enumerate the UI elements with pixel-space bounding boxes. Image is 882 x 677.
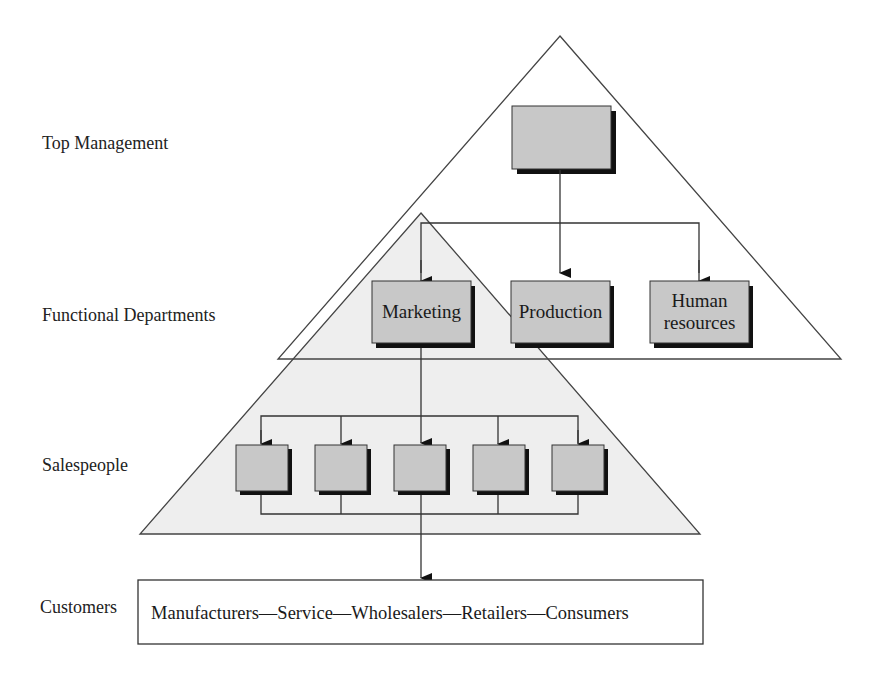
customers-types: Manufacturers—Service—Wholesalers—Retail… <box>151 603 629 624</box>
salesperson-box-4 <box>473 445 529 495</box>
salesperson-box-1 <box>236 445 292 495</box>
level-label-customers: Customers <box>40 597 117 618</box>
salesperson-box-3 <box>394 445 450 495</box>
department-label-production: Production <box>511 281 610 343</box>
top-management-box <box>512 106 616 174</box>
level-label-salespeople: Salespeople <box>42 455 128 476</box>
level-label-functional-departments: Functional Departments <box>42 305 215 326</box>
department-label-marketing: Marketing <box>372 281 471 343</box>
level-label-top-management: Top Management <box>42 133 168 154</box>
salesperson-box-5 <box>552 445 608 495</box>
salesperson-box-2 <box>315 445 371 495</box>
department-label-human-resources: Human resources <box>650 281 749 343</box>
